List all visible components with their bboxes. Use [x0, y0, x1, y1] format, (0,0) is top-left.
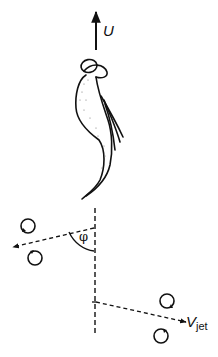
right-jet [92, 294, 186, 343]
vortex-ring-icon [160, 294, 174, 308]
vortex-ring-icon [154, 329, 168, 343]
diagram-canvas [0, 0, 218, 357]
vortex-ring-icon [21, 219, 35, 233]
angle-label: φ [79, 229, 88, 244]
swimming-velocity-label: U [103, 22, 114, 39]
organism [76, 58, 123, 199]
vortex-ring-icon [28, 250, 42, 265]
jet-velocity-label: Vjet [186, 313, 208, 332]
jet-velocity-symbol: V [186, 313, 196, 330]
jet-velocity-subscript: jet [196, 320, 208, 332]
